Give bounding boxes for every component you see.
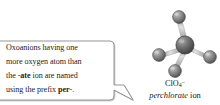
ion-name-roman: ion xyxy=(188,91,201,100)
ion-name-italic: perchlorate xyxy=(149,91,188,100)
chemical-formula: ClO4− xyxy=(130,77,220,90)
callout-line-4: using the prefix per-. xyxy=(6,83,110,97)
oxygen-atom-left xyxy=(153,49,166,62)
oxygen-atom-right xyxy=(204,51,217,64)
oxygen-atom-top xyxy=(173,11,186,24)
ion-name: perchlorate ion xyxy=(130,90,220,101)
callout-text-run: ion are named xyxy=(31,71,78,80)
chlorine-atom-center xyxy=(176,36,194,54)
callout-text-block: Oxoanions having one more oxygen atom th… xyxy=(6,41,110,97)
callout-line-2: more oxygen atom than xyxy=(6,55,110,69)
oxygen-atom-bottom xyxy=(169,65,182,78)
figure-canvas: Oxoanions having one more oxygen atom th… xyxy=(0,0,220,105)
callout-line-1: Oxoanions having one xyxy=(6,41,110,55)
formula-charge: − xyxy=(182,79,185,85)
callout-text-run: more oxygen atom than xyxy=(6,57,82,66)
callout-text-run: the - xyxy=(6,71,20,80)
perchlorate-molecule-model xyxy=(148,2,220,78)
formula-symbol: ClO xyxy=(165,79,179,88)
callout-text-run: Oxoanions having one xyxy=(6,43,78,52)
callout-text-run: -. xyxy=(70,85,75,94)
callout-bold-run: ate xyxy=(20,71,30,80)
callout-text-run: using the prefix xyxy=(6,85,58,94)
callout-bold-run: per xyxy=(58,85,70,94)
molecule-caption: ClO4− perchlorate ion xyxy=(130,77,220,101)
callout-line-3: the -ate ion are named xyxy=(6,69,110,83)
